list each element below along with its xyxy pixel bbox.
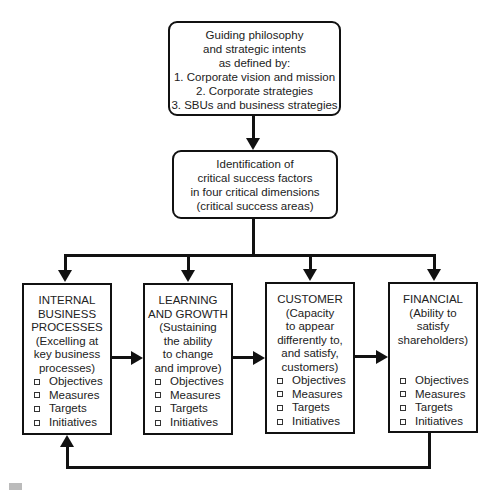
list-item: Initiatives (155, 416, 224, 430)
square-bullet-icon (400, 378, 406, 384)
bullet-label: Measures (415, 388, 466, 402)
square-bullet-icon (400, 391, 406, 397)
dimension-title: CUSTOMER (Capacity to appear differently… (267, 284, 353, 375)
dimension-title-line: AND GROWTH (145, 308, 231, 322)
dimension-title-line: satisfy (390, 320, 476, 334)
dimension-title-line: the ability (145, 335, 231, 349)
dimension-title-line: and satisfy, (267, 347, 353, 361)
guiding-line-4: 1. Corporate vision and mission (170, 70, 339, 84)
connector-internal-to-learning (112, 356, 132, 359)
list-item: Measures (400, 388, 469, 402)
connector-customer-to-financial (355, 355, 377, 358)
list-item: Measures (155, 389, 224, 403)
list-item: Objectives (400, 374, 469, 388)
connector-learning-to-customer (233, 356, 254, 359)
learning-and-growth-box: LEARNING AND GROWTH (Sustaining the abil… (143, 283, 233, 435)
list-item: Targets (277, 401, 346, 415)
square-bullet-icon (155, 379, 161, 385)
dimension-title-line: to appear (267, 320, 353, 334)
arrow-right-icon (253, 351, 265, 365)
guiding-line-6: 3. SBUs and business strategies (170, 98, 339, 112)
square-bullet-icon (277, 378, 283, 384)
list-item: Initiatives (277, 415, 346, 429)
dimension-title: INTERNAL BUSINESS PROCESSES (Excelling a… (24, 285, 110, 376)
csf-line-1: Identification of (174, 157, 336, 171)
list-item: Targets (34, 402, 103, 416)
list-item: Targets (400, 401, 469, 415)
square-bullet-icon (34, 379, 40, 385)
dimension-title: LEARNING AND GROWTH (Sustaining the abil… (145, 285, 231, 376)
square-bullet-icon (400, 419, 406, 425)
square-bullet-icon (277, 419, 283, 425)
dimension-title-line: customers) (267, 361, 353, 375)
caption-marker-icon (9, 483, 22, 490)
dimension-title-line: (Capacity (267, 307, 353, 321)
bullet-label: Targets (49, 402, 87, 416)
dimension-title-line: CUSTOMER (267, 293, 353, 307)
customer-box: CUSTOMER (Capacity to appear differently… (265, 282, 355, 434)
list-item: Initiatives (400, 415, 469, 429)
dimension-title-line: PROCESSES (24, 321, 110, 335)
list-item: Objectives (34, 375, 103, 389)
arrow-down-icon (303, 269, 317, 281)
list-item: Objectives (155, 375, 224, 389)
bullet-label: Targets (292, 401, 330, 415)
csf-line-4: (critical success areas) (174, 199, 336, 213)
square-bullet-icon (277, 405, 283, 411)
arrow-right-icon (376, 350, 388, 364)
dimension-title-line: FINANCIAL (390, 293, 476, 307)
dimension-title: FINANCIAL (Ability to satisfy shareholde… (390, 284, 476, 347)
guiding-line-5: 2. Corporate strategies (170, 84, 339, 98)
arrow-up-icon (60, 435, 74, 447)
feedback-line-horizontal (66, 466, 431, 469)
bullet-label: Objectives (49, 375, 103, 389)
guiding-line-1: Guiding philosophy (170, 28, 339, 42)
bullet-label: Initiatives (49, 416, 97, 430)
measure-list: Objectives Measures Targets Initiatives (400, 374, 469, 428)
guiding-line-2: and strategic intents (170, 42, 339, 56)
arrow-right-icon (131, 351, 143, 365)
square-bullet-icon (155, 392, 161, 398)
connector-middle-to-bus (252, 219, 255, 257)
feedback-line-down (428, 433, 431, 469)
bullet-label: Objectives (415, 374, 469, 388)
financial-box: FINANCIAL (Ability to satisfy shareholde… (388, 282, 478, 433)
list-item: Targets (155, 402, 224, 416)
arrow-down-icon (181, 270, 195, 282)
guiding-philosophy-box: Guiding philosophy and strategic intents… (168, 21, 341, 116)
square-bullet-icon (155, 406, 161, 412)
square-bullet-icon (277, 391, 283, 397)
bullet-label: Initiatives (415, 415, 463, 429)
dimension-title-line: processes) (24, 362, 110, 376)
square-bullet-icon (34, 392, 40, 398)
list-item: Objectives (277, 374, 346, 388)
bullet-label: Targets (170, 402, 208, 416)
bullet-label: Measures (49, 389, 100, 403)
horizontal-bus-line (64, 254, 436, 257)
list-item: Initiatives (34, 416, 103, 430)
square-bullet-icon (155, 420, 161, 426)
measure-list: Objectives Measures Targets Initiatives (277, 374, 346, 428)
bullet-label: Initiatives (292, 415, 340, 429)
square-bullet-icon (34, 406, 40, 412)
bullet-label: Objectives (170, 375, 224, 389)
feedback-line-up (66, 446, 69, 469)
bullet-label: Targets (415, 401, 453, 415)
dimension-title-line: and improve) (145, 362, 231, 376)
dimension-title-line: (Excelling at (24, 335, 110, 349)
list-item: Measures (34, 389, 103, 403)
measure-list: Objectives Measures Targets Initiatives (155, 375, 224, 429)
internal-business-processes-box: INTERNAL BUSINESS PROCESSES (Excelling a… (22, 283, 112, 435)
dimension-title-line: to change (145, 348, 231, 362)
guiding-line-3: as defined by: (170, 56, 339, 70)
dimension-title-line: differently to, (267, 334, 353, 348)
square-bullet-icon (34, 420, 40, 426)
arrow-down-icon (427, 269, 441, 281)
bullet-label: Measures (292, 388, 343, 402)
dimension-title-line: BUSINESS (24, 308, 110, 322)
dimension-title-line: key business (24, 348, 110, 362)
dimension-title-line: INTERNAL (24, 294, 110, 308)
bullet-label: Objectives (292, 374, 346, 388)
dimension-title-line: shareholders) (390, 334, 476, 348)
dimension-title-line: (Sustaining (145, 321, 231, 335)
